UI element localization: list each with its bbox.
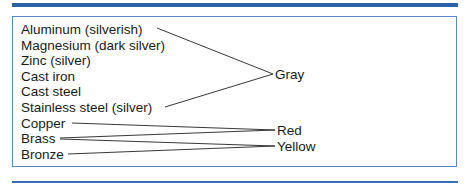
line-brass-yellow: [60, 139, 275, 146]
line-copper-red: [72, 123, 275, 130]
line-bronze-yellow: [68, 146, 275, 154]
metal-stainless-steel: Stainless steel (silver): [21, 100, 152, 115]
color-gray: Gray: [275, 67, 304, 82]
metal-zinc: Zinc (silver): [21, 53, 91, 68]
metal-bronze: Bronze: [21, 147, 64, 162]
metal-cast-steel: Cast steel: [21, 84, 81, 99]
color-red: Red: [277, 123, 302, 138]
line-brass-red: [60, 130, 275, 138]
color-yellow: Yellow: [277, 139, 316, 154]
line-aluminum-gray: [157, 28, 273, 74]
metal-aluminum: Aluminum (silverish): [21, 22, 143, 37]
metal-brass: Brass: [21, 131, 56, 146]
line-stainless-gray: [165, 74, 273, 107]
metal-magnesium: Magnesium (dark silver): [21, 38, 165, 53]
metal-cast-iron: Cast iron: [21, 69, 75, 84]
metal-copper: Copper: [21, 116, 65, 131]
